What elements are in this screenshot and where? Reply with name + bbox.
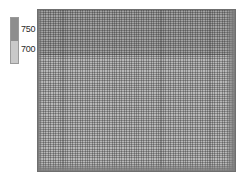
- figure-canvas: 750 700: [0, 0, 246, 182]
- mesh-edge-shade-bottom: [38, 164, 235, 171]
- mesh-gridlines-horizontal: [38, 10, 235, 171]
- colorbar-band-lower: [11, 41, 18, 63]
- colorbar-legend: [10, 17, 19, 64]
- colorbar-tick-label-750: 750: [21, 25, 35, 34]
- plot-area: [37, 9, 236, 172]
- mesh-grid: [38, 10, 235, 171]
- colorbar-band-upper: [11, 18, 18, 41]
- colorbar-tick-label-700: 700: [21, 45, 35, 54]
- mesh-edge-shade-left: [38, 10, 42, 171]
- mesh-edge-shade-right: [226, 10, 235, 171]
